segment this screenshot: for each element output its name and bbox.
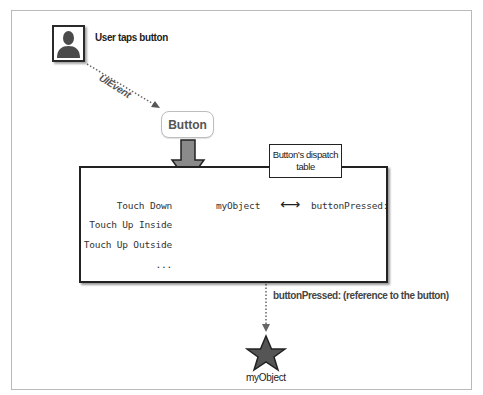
event-touch-up-outside: Touch Up Outside xyxy=(84,239,172,250)
event-touch-down: Touch Down xyxy=(117,200,172,211)
mapping-target: myObject xyxy=(216,200,260,211)
event-ellipsis: ... xyxy=(155,259,172,270)
mapping-action: buttonPressed: xyxy=(311,200,388,211)
event-touch-up-inside: Touch Up Inside xyxy=(89,219,172,230)
user-avatar xyxy=(52,25,85,62)
user-label: User taps button xyxy=(95,31,168,43)
dispatch-table-label: Button’s dispatch table xyxy=(269,144,342,178)
target-object-label: myObject xyxy=(246,372,286,383)
action-message-label: buttonPressed: (reference to the button) xyxy=(273,290,449,301)
double-arrow-icon: ⟷ xyxy=(280,196,300,212)
person-silhouette-icon xyxy=(56,29,81,58)
button-label: Button xyxy=(168,118,207,132)
star-icon xyxy=(247,336,285,370)
uievent-arrowhead xyxy=(151,101,160,108)
dispatch-label-line2: table xyxy=(270,161,341,173)
action-arrowhead xyxy=(262,324,270,332)
button-node: Button xyxy=(161,111,214,138)
dispatch-label-line1: Button’s dispatch xyxy=(270,149,341,161)
control-events-list: Touch Down Touch Up Inside Touch Up Outs… xyxy=(60,200,172,280)
